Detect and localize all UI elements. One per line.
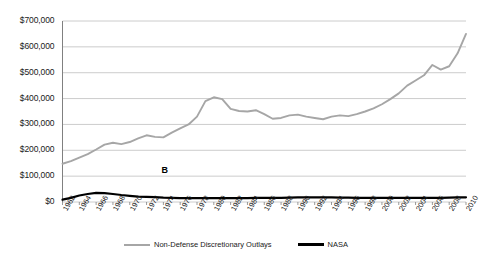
legend-item-nasa: NASA	[298, 240, 348, 249]
annotation-label-b: B	[160, 165, 169, 175]
legend-swatch-icon	[124, 244, 150, 246]
legend-swatch-icon	[298, 243, 324, 246]
y-axis-tick-label: $300,000	[0, 118, 55, 128]
y-axis-tick-label: $200,000	[0, 144, 55, 154]
chart-legend: Non-Defense Discretionary Outlays NASA	[0, 240, 472, 249]
legend-item-non-defense-discretionary-outlays: Non-Defense Discretionary Outlays	[124, 240, 272, 249]
y-axis-tick-label: $700,000	[0, 15, 55, 25]
gridlines	[63, 21, 467, 202]
y-axis-tick-label: $0	[0, 196, 55, 206]
y-axis-tick-label: $600,000	[0, 41, 55, 51]
y-axis-tick-label: $400,000	[0, 93, 55, 103]
y-axis-tick-label: $100,000	[0, 170, 55, 180]
legend-label: Non-Defense Discretionary Outlays	[154, 240, 272, 249]
legend-label: NASA	[328, 240, 348, 249]
data-series	[63, 34, 467, 200]
y-axis-tick-label: $500,000	[0, 67, 55, 77]
